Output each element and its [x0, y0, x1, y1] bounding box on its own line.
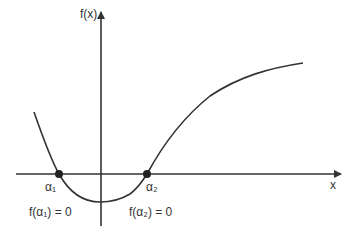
x-axis-label: x: [330, 178, 336, 192]
function-curve: [34, 63, 303, 202]
root-label-alpha2: α₂: [146, 180, 158, 194]
function-roots-diagram: f(x) x α₁ α₂ f(α₁) = 0 f(α₂) = 0: [0, 0, 361, 234]
root-point-alpha1: [55, 170, 63, 178]
root-equation-alpha1: f(α₁) = 0: [29, 205, 72, 219]
root-point-alpha2: [143, 170, 151, 178]
root-equation-alpha2: f(α₂) = 0: [129, 205, 172, 219]
root-label-alpha1: α₁: [45, 180, 56, 194]
y-axis-label: f(x): [80, 7, 97, 21]
plot-canvas: [0, 0, 361, 234]
